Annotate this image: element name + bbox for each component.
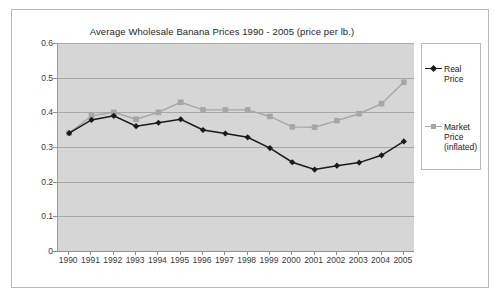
y-axis-tick-label: 0.3 bbox=[29, 143, 53, 151]
y-axis-tick-label: 0.5 bbox=[29, 74, 53, 82]
x-axis-tick-mark bbox=[90, 251, 91, 255]
x-axis-tick-mark bbox=[403, 251, 404, 255]
chart-frame: Average Wholesale Banana Prices 1990 - 2… bbox=[11, 9, 489, 288]
data-point-marker bbox=[133, 123, 139, 129]
x-axis-tick-label: 2005 bbox=[388, 255, 418, 265]
legend-item-real-price[interactable]: Real Price bbox=[425, 64, 463, 84]
x-axis-tick-mark bbox=[381, 251, 382, 255]
y-axis-tick-labels: 0.60.50.40.30.20.10 bbox=[27, 10, 53, 289]
y-axis-tick-mark bbox=[53, 251, 57, 252]
legend-item-market-price[interactable]: Market Price (inflated) bbox=[425, 122, 477, 152]
legend-swatch-real-price-icon bbox=[425, 64, 442, 74]
x-axis-tick-mark bbox=[358, 251, 359, 255]
data-point-marker bbox=[401, 79, 407, 85]
data-point-marker bbox=[155, 120, 161, 126]
y-axis-tick-mark bbox=[53, 43, 57, 44]
data-point-marker bbox=[156, 110, 162, 116]
series-line-real-price bbox=[69, 116, 404, 170]
data-point-marker bbox=[178, 116, 184, 122]
y-axis-tick-mark bbox=[53, 147, 57, 148]
data-point-marker bbox=[222, 130, 228, 136]
legend-label-real-price-line2: Price bbox=[444, 74, 463, 84]
x-axis-tick-labels: 1990199119921993199419951996199719981999… bbox=[57, 255, 414, 271]
x-axis-tick-mark bbox=[291, 251, 292, 255]
legend-label-market-price-line1: Market bbox=[444, 122, 477, 132]
data-point-marker bbox=[178, 99, 184, 105]
data-point-marker bbox=[312, 124, 318, 130]
legend-label-real-price: Real Price bbox=[444, 64, 463, 84]
x-axis-tick-mark bbox=[113, 251, 114, 255]
data-point-marker bbox=[245, 107, 251, 113]
x-axis-tick-mark bbox=[314, 251, 315, 255]
data-point-marker bbox=[200, 127, 206, 133]
data-point-marker bbox=[289, 124, 295, 130]
data-point-marker bbox=[356, 111, 362, 117]
plot-area bbox=[57, 43, 414, 251]
diamond-marker-icon bbox=[430, 65, 437, 72]
y-axis-tick-label: 0.1 bbox=[29, 212, 53, 220]
y-axis-tick-label: 0 bbox=[29, 247, 53, 255]
y-axis-tick-label: 0.2 bbox=[29, 178, 53, 186]
data-point-marker bbox=[334, 118, 340, 124]
x-axis-tick-mark bbox=[68, 251, 69, 255]
legend-label-market-price-line2: Price bbox=[444, 132, 477, 142]
x-axis-tick-mark bbox=[224, 251, 225, 255]
data-point-marker bbox=[356, 160, 362, 166]
x-axis-line bbox=[57, 251, 414, 252]
x-axis-tick-mark bbox=[157, 251, 158, 255]
y-axis-tick-mark bbox=[53, 112, 57, 113]
legend-label-market-price-line3: (inflated) bbox=[444, 142, 477, 152]
square-marker-icon bbox=[431, 124, 436, 129]
legend-label-market-price: Market Price (inflated) bbox=[444, 122, 477, 152]
x-axis-tick-mark bbox=[202, 251, 203, 255]
data-point-marker bbox=[133, 116, 139, 122]
series-line-market-price bbox=[69, 82, 404, 133]
data-point-marker bbox=[334, 163, 340, 169]
y-axis-tick-mark bbox=[53, 216, 57, 217]
x-axis-tick-mark bbox=[180, 251, 181, 255]
legend: Real Price Market Price (inflated) bbox=[421, 43, 481, 170]
data-point-marker bbox=[223, 107, 229, 113]
legend-swatch-market-price-icon bbox=[425, 122, 442, 132]
data-point-marker bbox=[379, 101, 385, 107]
legend-label-real-price-line1: Real bbox=[444, 64, 463, 74]
y-axis-tick-mark bbox=[53, 182, 57, 183]
x-axis-tick-mark bbox=[269, 251, 270, 255]
chart-title: Average Wholesale Banana Prices 1990 - 2… bbox=[12, 26, 432, 37]
data-point-marker bbox=[267, 114, 273, 120]
data-point-marker bbox=[200, 107, 206, 113]
screenshot-root: Average Wholesale Banana Prices 1990 - 2… bbox=[0, 0, 500, 297]
y-axis-tick-label: 0.6 bbox=[29, 39, 53, 47]
x-axis-tick-mark bbox=[247, 251, 248, 255]
data-point-marker bbox=[311, 166, 317, 172]
x-axis-tick-mark bbox=[135, 251, 136, 255]
data-point-marker bbox=[245, 134, 251, 140]
y-axis-tick-mark bbox=[53, 78, 57, 79]
series-plot bbox=[58, 43, 415, 251]
x-axis-tick-mark bbox=[336, 251, 337, 255]
y-axis-tick-label: 0.4 bbox=[29, 108, 53, 116]
